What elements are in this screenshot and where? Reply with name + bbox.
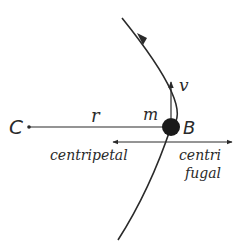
body-mass bbox=[162, 118, 180, 136]
centripetal-force-diagram: C r m B v centripetal centri fugal bbox=[0, 0, 242, 248]
label-radius: r bbox=[91, 105, 101, 126]
label-body: B bbox=[183, 117, 195, 138]
label-centrifugal-1: centri bbox=[179, 147, 221, 163]
label-centripetal: centripetal bbox=[50, 147, 128, 163]
center-point bbox=[27, 125, 31, 129]
label-mass: m bbox=[143, 105, 158, 124]
label-centrifugal-2: fugal bbox=[184, 165, 221, 181]
label-velocity: v bbox=[179, 75, 189, 95]
label-center: C bbox=[9, 115, 23, 139]
